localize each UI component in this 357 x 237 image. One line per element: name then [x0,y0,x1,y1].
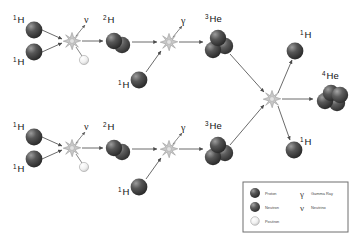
bottom-proton-a [26,129,43,146]
legend-positron-sphere-icon [251,217,260,226]
label-bottom-neutrino: ν [84,121,89,132]
bottom-proton-b [26,151,43,168]
top-fusion-burst-2 [160,33,178,50]
legend-label-positron: Positron [265,219,279,224]
legend-label-neutrino: Neutrino [311,205,326,210]
label-top-gamma: γ [180,15,186,26]
bottom-proton-c [131,179,148,196]
pp-chain-diagram: 1H 1H ν 2H 1H [0,0,357,237]
diagram-canvas: 1H 1H ν 2H 1H [0,0,357,237]
top-proton-a [26,22,43,39]
legend-neutrino-icon: ν [300,203,304,213]
top-positron [79,55,88,64]
bottom-fusion-burst-2 [160,140,178,157]
bottom-positron [79,162,88,171]
legend-label-gamma-ray: Gamma Ray [311,191,333,196]
legend: Proton Neutron Positron γ Gamma Ray ν Ne… [243,182,348,232]
final-proton-top [287,43,304,60]
legend-label-proton: Proton [265,191,276,196]
legend-gamma-icon: γ [299,189,304,199]
top-fusion-burst-1 [63,32,81,49]
label-top-neutrino: ν [84,14,89,25]
legend-label-neutron: Neutron [265,205,279,210]
final-proton-bottom [286,142,303,159]
label-bottom-gamma: γ [180,122,186,133]
top-proton-c [131,72,148,89]
top-proton-b [26,44,43,61]
legend-neutron-sphere-icon [250,202,260,212]
bottom-fusion-burst-1 [63,139,81,156]
legend-proton-sphere-icon [250,188,260,198]
